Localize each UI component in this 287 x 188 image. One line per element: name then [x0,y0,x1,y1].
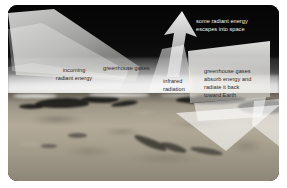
label-greenhouse-gases: greenhouse gases [103,65,163,73]
label-escaping-radiation: some radiant energy escapes into space [196,18,279,34]
label-infrared-radiation: infrared radiation [163,78,197,94]
satellite-photo-plate: some radiant energy escapes into space i… [8,5,279,181]
label-greenhouse-gases-absorb: greenhouse gases absorb energy and radia… [204,68,270,100]
label-incoming-radiant-energy: incoming radiant energy [43,67,105,83]
greenhouse-effect-figure: some radiant energy escapes into space i… [0,0,287,188]
